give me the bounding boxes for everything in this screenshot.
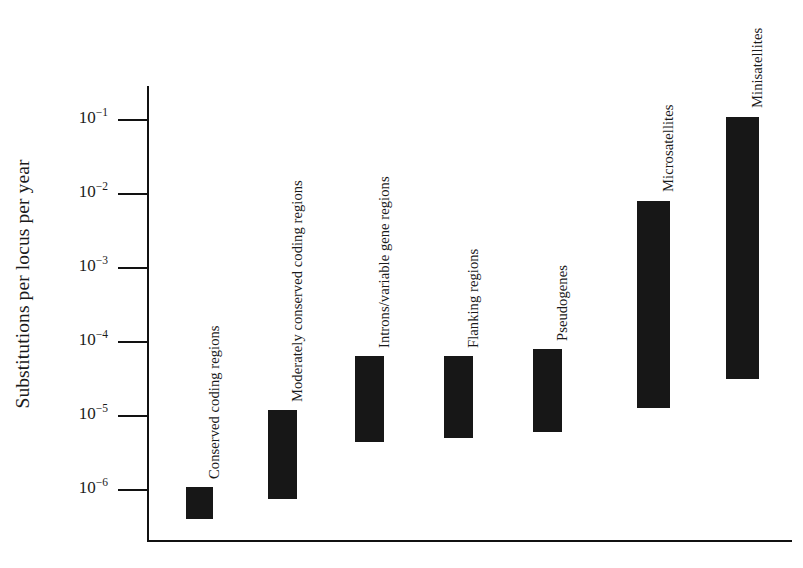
bar-range-6 [637,201,670,407]
bar-range-4 [444,356,473,438]
bar-range-3 [355,356,384,442]
y-tick-mark [118,415,148,417]
chart-figure: Substitutions per locus per year 10−110−… [0,0,803,568]
y-tick-label: 10−3 [79,257,108,274]
y-tick-label: 10−2 [79,183,108,200]
y-tick-label: 10−6 [79,479,108,496]
y-tick-label: 10−4 [79,331,108,348]
bar-category-label: Pseudogenes [555,265,570,341]
y-axis-spine [147,86,149,542]
bar-range-7 [726,117,759,379]
bar-range-2 [268,410,297,499]
bar-category-label: Microsatellites [661,105,676,192]
bar-range-5 [533,349,562,432]
x-axis-spine [147,540,792,542]
y-tick-label: 10−1 [79,109,108,126]
y-tick-mark [118,193,148,195]
bar-category-label: Introns/variable gene regions [377,176,392,348]
bar-category-label: Flanking regions [466,249,481,348]
bar-category-label: Conserved coding regions [207,325,222,479]
bar-range-1 [186,487,213,520]
y-tick-mark [118,489,148,491]
y-tick-mark [118,119,148,121]
y-axis-tick-labels: 10−110−210−310−410−510−6 [0,0,108,568]
y-tick-mark [118,341,148,343]
bar-category-label: Moderately conserved coding regions [290,180,305,402]
y-tick-label: 10−5 [79,405,108,422]
y-tick-mark [118,267,148,269]
bar-category-label: Minisatellites [750,28,765,108]
